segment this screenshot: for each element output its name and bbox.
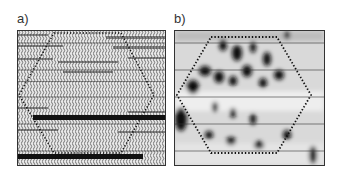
panel-a-seismic-section (17, 30, 166, 166)
strong-reflector-upper (33, 115, 165, 120)
attribute-map-image (175, 31, 324, 165)
strong-reflector-lower (18, 154, 143, 159)
panel-b-attribute-map (174, 30, 325, 166)
panel-a-label: a) (17, 12, 29, 25)
seismic-wiggle-image (18, 31, 165, 165)
panel-b-label: b) (174, 12, 186, 25)
